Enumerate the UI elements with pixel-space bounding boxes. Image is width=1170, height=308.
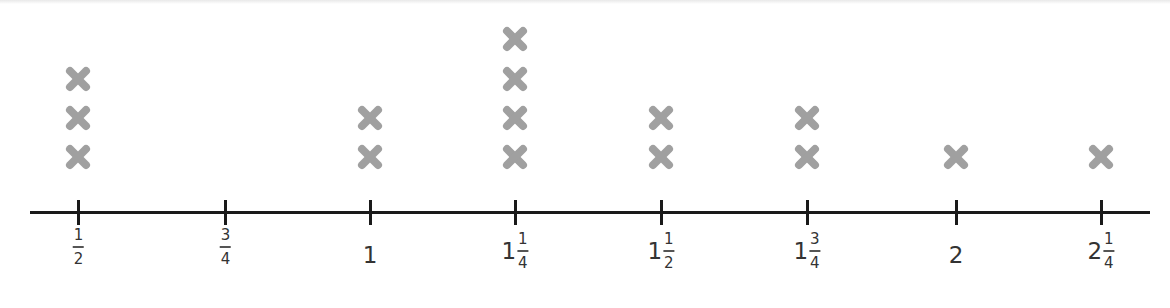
axis-tick [77, 200, 80, 225]
axis-tick [806, 200, 809, 225]
tick-label-whole: 1 [647, 240, 662, 263]
tick-label-fraction: 12 [663, 232, 675, 271]
x-icon [355, 142, 385, 172]
fraction-numerator: 3 [809, 232, 821, 247]
fraction-numerator: 1 [73, 228, 85, 243]
fraction-bar [1103, 250, 1114, 252]
x-icon [500, 24, 530, 54]
top-border [0, 0, 1170, 4]
tick-label-whole: 2 [1087, 240, 1102, 263]
fraction-numerator: 1 [517, 232, 529, 247]
tick-label-whole: 2 [949, 244, 964, 267]
tick-label-fraction: 14 [1103, 232, 1115, 271]
fraction-bar [663, 250, 674, 252]
x-icon [63, 142, 93, 172]
tick-label-whole: 1 [793, 240, 808, 263]
axis-tick [224, 200, 227, 225]
axis-tick [955, 200, 958, 225]
x-icon [792, 142, 822, 172]
fraction-denominator: 4 [221, 252, 231, 267]
number-line-axis [30, 211, 1150, 214]
x-icon [500, 103, 530, 133]
tick-label: 1 [363, 244, 378, 267]
x-icon [500, 142, 530, 172]
fraction-denominator: 2 [74, 252, 84, 267]
tick-label: 34 [219, 228, 232, 267]
fraction-numerator: 1 [1103, 232, 1115, 247]
tick-label: 2 [949, 244, 964, 267]
tick-label-fraction: 34 [809, 232, 821, 271]
tick-label: 214 [1087, 232, 1114, 271]
x-icon [941, 142, 971, 172]
x-icon [500, 64, 530, 94]
fraction-denominator: 4 [810, 256, 820, 271]
fraction-denominator: 4 [518, 256, 528, 271]
axis-tick [369, 200, 372, 225]
tick-label-fraction: 34 [220, 228, 232, 267]
x-icon [355, 103, 385, 133]
tick-label: 12 [72, 228, 85, 267]
axis-tick [660, 200, 663, 225]
x-icon [63, 103, 93, 133]
fraction-denominator: 4 [1104, 256, 1114, 271]
tick-label-whole: 1 [363, 244, 378, 267]
x-icon [646, 103, 676, 133]
fraction-bar [809, 250, 820, 252]
fraction-bar [517, 250, 528, 252]
x-icon [792, 103, 822, 133]
x-icon [63, 64, 93, 94]
axis-tick [514, 200, 517, 225]
fraction-numerator: 3 [220, 228, 232, 243]
fraction-denominator: 2 [664, 256, 674, 271]
x-icon [1086, 142, 1116, 172]
tick-label: 134 [793, 232, 820, 271]
x-icon [646, 142, 676, 172]
axis-tick [1100, 200, 1103, 225]
tick-label-whole: 1 [501, 240, 516, 263]
tick-label-fraction: 12 [73, 228, 85, 267]
fraction-numerator: 1 [663, 232, 675, 247]
fraction-bar [220, 246, 231, 248]
tick-label: 112 [647, 232, 674, 271]
tick-label-fraction: 14 [517, 232, 529, 271]
tick-label: 114 [501, 232, 528, 271]
fraction-bar [73, 246, 84, 248]
